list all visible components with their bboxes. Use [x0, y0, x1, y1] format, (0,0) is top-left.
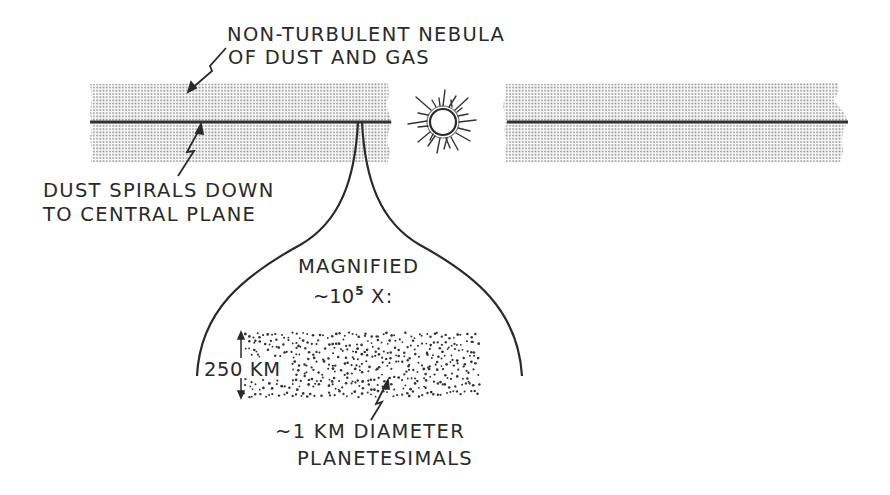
nebula-label-line2: OF DUST AND GAS: [228, 48, 430, 68]
magnification-exponent: 5: [355, 284, 363, 298]
magnification-suffix: X:: [364, 285, 394, 308]
planetesimal-label-line2: PLANETESIMALS: [297, 449, 473, 469]
planetesimal-label-line1: ~1 KM DIAMETER: [275, 422, 465, 442]
magnified-label-line1: MAGNIFIED: [298, 257, 419, 277]
nebula-label-line1: NON-TURBULENT NEBULA: [227, 25, 505, 45]
dust-label-line1: DUST SPIRALS DOWN: [43, 181, 275, 201]
magnified-label-line2: ~105 X:: [313, 285, 394, 307]
planetesimal-leader-arrow: [371, 380, 389, 420]
sun-icon: [408, 90, 476, 153]
dust-label-line2: TO CENTRAL PLANE: [43, 205, 256, 225]
magnification-factor: ~10: [313, 285, 354, 308]
thickness-label: 250 KM: [204, 360, 281, 380]
